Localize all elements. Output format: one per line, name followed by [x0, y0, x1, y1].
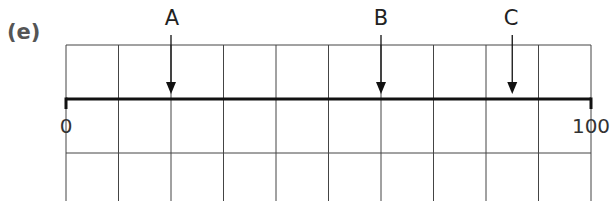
- arrow-down-icon: [507, 82, 517, 94]
- number-line-diagram: (e) 0 100 A B C: [0, 0, 610, 201]
- point-label-b: B: [374, 6, 388, 30]
- end-label: 100: [572, 114, 610, 138]
- start-label: 0: [60, 114, 73, 138]
- point-arrows: [166, 35, 517, 94]
- point-label-c: C: [504, 6, 519, 30]
- arrow-down-icon: [376, 82, 386, 94]
- grid-and-number-line: [0, 0, 610, 201]
- point-label-a: A: [165, 6, 179, 30]
- arrow-down-icon: [166, 82, 176, 94]
